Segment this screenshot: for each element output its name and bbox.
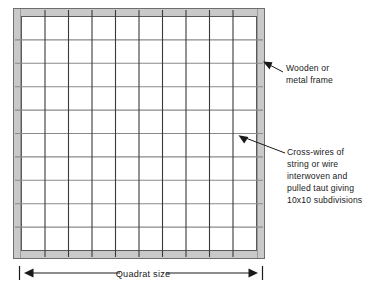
frame-callout-line-2: metal frame bbox=[286, 75, 333, 85]
diagram-canvas: Wooden or metal frame Cross-wires of str… bbox=[0, 0, 370, 290]
frame-callout: Wooden or metal frame bbox=[263, 62, 333, 86]
wires-callout-line-1: Cross-wires of bbox=[287, 147, 344, 157]
wires-callout-line-3: interwoven and bbox=[287, 171, 347, 181]
wires-callout-line-5: 10x10 subdivisions bbox=[287, 195, 362, 205]
quadrat-size-dimension: Quadrat size bbox=[20, 266, 263, 280]
wires-callout-line-4: pulled taut giving bbox=[287, 183, 354, 193]
arrow-left-icon bbox=[24, 269, 34, 278]
wires-callout-line-2: string or wire bbox=[287, 159, 338, 169]
arrow-right-icon bbox=[249, 269, 259, 278]
frame-callout-line-1: Wooden or bbox=[286, 63, 329, 73]
quadrat-diagram: Wooden or metal frame Cross-wires of str… bbox=[0, 0, 370, 290]
quadrat-size-label: Quadrat size bbox=[116, 269, 171, 279]
